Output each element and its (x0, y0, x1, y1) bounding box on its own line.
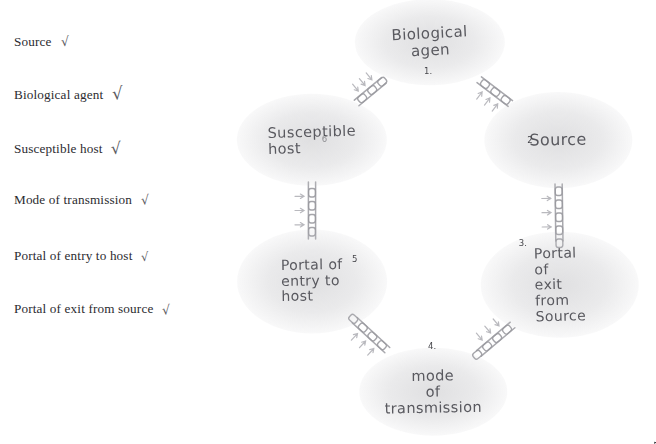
node-number: 3. (519, 238, 527, 248)
node-label: Susceptible host (267, 123, 356, 158)
node-number: 5 (352, 254, 357, 264)
checkmark-icon: √ (141, 193, 150, 207)
checklist-row: Biological agent √ (14, 85, 123, 103)
node-biological-agent[interactable]: Biological agen 1. (392, 25, 468, 59)
checkmark-icon: √ (162, 303, 171, 317)
checkmark-icon: √ (111, 141, 122, 158)
checklist-item-label: Source (14, 34, 52, 50)
node-number: 1. (424, 66, 432, 76)
checklist-row: Portal of exit from source √ (14, 301, 171, 317)
checklist-row: Source √ (14, 34, 69, 50)
checklist-row: Susceptible host √ (14, 140, 122, 157)
node-label: Source (529, 131, 587, 150)
node-mode-of-transmission[interactable]: mode of transmission 4. (384, 368, 481, 417)
node-label: Portal of entry to host (281, 257, 344, 305)
node-source[interactable]: Source 2 (529, 131, 586, 149)
checklist-item-label: Susceptible host (14, 141, 102, 157)
checklist-item-label: Portal of entry to host (14, 248, 132, 264)
checklist-item-label: Portal of exit from source (14, 301, 153, 317)
checkmark-icon: √ (141, 251, 149, 264)
answer-checklist: Source √ Biological agent √ Susceptible … (0, 0, 250, 444)
checkmark-icon: √ (60, 35, 69, 49)
node-label: Portal of exit from Source (534, 245, 587, 325)
node-portal-of-exit-from-source[interactable]: Portal of exit from Source 3. (535, 246, 585, 324)
node-label: mode of transmission (384, 367, 482, 417)
node-number: 6 (322, 134, 327, 144)
chain-of-infection-diagram: Biological agen 1. Source 2 Portal of ex… (250, 0, 610, 444)
checklist-row: Portal of entry to host √ (14, 248, 149, 264)
node-number: 2 (527, 135, 532, 145)
node-portal-of-entry-to-host[interactable]: Portal of entry to host 5 (281, 257, 343, 304)
node-label: Biological agen (391, 23, 469, 61)
checklist-row: Mode of transmission √ (14, 192, 149, 208)
checklist-item-label: Biological agent (14, 87, 103, 103)
credit-line: Courtesy of Delmar Cengage Learning (636, 231, 654, 441)
checklist-item-label: Mode of transmission (14, 192, 132, 208)
checkmark-icon: √ (112, 85, 124, 103)
node-susceptible-host[interactable]: Susceptible host 6 (268, 124, 356, 156)
node-number: 4. (428, 341, 436, 351)
